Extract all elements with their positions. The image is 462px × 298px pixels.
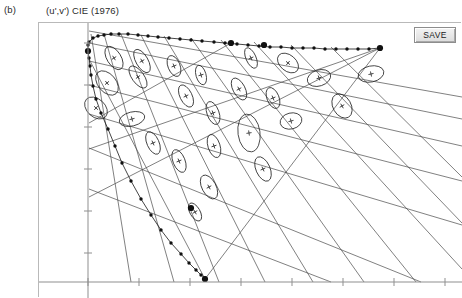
wavelength-marker	[146, 34, 149, 37]
wavelength-marker	[136, 33, 139, 36]
wavelength-marker	[199, 273, 202, 276]
wavelength-marker	[279, 45, 282, 48]
macadam-ellipse	[357, 63, 386, 84]
macadam-ellipse	[193, 64, 208, 86]
grid-lines-group	[89, 31, 462, 282]
macadam-ellipse	[263, 86, 282, 111]
wavelength-marker	[109, 32, 112, 35]
wavelength-marker	[312, 46, 315, 49]
wavelength-marker	[120, 161, 123, 164]
macadam-ellipse	[278, 111, 303, 132]
wavelength-marker	[334, 47, 337, 50]
wavelength-marker	[345, 47, 348, 50]
grid-line	[89, 59, 205, 279]
wavelength-marker	[169, 241, 172, 244]
grid-line	[91, 34, 131, 282]
grid-line	[89, 189, 331, 282]
wavelength-marker	[88, 64, 91, 67]
wavelength-marker	[257, 44, 260, 47]
panel-label: (b)	[4, 4, 16, 15]
macadam-ellipse	[118, 109, 147, 129]
macadam-ellipse	[169, 148, 189, 175]
wavelength-marker	[139, 197, 142, 200]
wavelength-marker	[102, 33, 105, 36]
grid-line	[89, 48, 380, 197]
wavelength-marker	[187, 261, 190, 264]
grid-line	[191, 38, 364, 282]
macadam-ellipse	[228, 76, 250, 103]
spectral-locus-upper	[89, 34, 380, 49]
macadam-ellipse	[175, 83, 196, 110]
wavelength-marker	[301, 46, 304, 49]
wavelength-marker	[94, 97, 97, 100]
primary-wavelength-marker	[377, 45, 383, 51]
wavelength-marker	[223, 41, 226, 44]
macadam-ellipse	[328, 90, 357, 122]
wavelength-marker	[178, 37, 181, 40]
wavelength-marker	[194, 268, 197, 271]
save-button[interactable]: SAVE	[414, 27, 456, 43]
macadam-ellipses-group	[80, 43, 385, 223]
wavelength-marker	[167, 36, 170, 39]
macadam-ellipse	[242, 46, 260, 70]
wavelength-marker	[149, 213, 152, 216]
wavelength-marker	[106, 127, 109, 130]
primary-wavelength-marker	[188, 205, 194, 211]
grid-line	[89, 31, 462, 97]
wavelength-marker	[126, 32, 129, 35]
wavelength-marker	[129, 179, 132, 182]
wavelength-marker	[290, 46, 293, 49]
wavelength-marker	[96, 34, 99, 37]
page-title: (u',v') CIE (1976)	[46, 5, 119, 16]
wavelength-marker	[179, 252, 182, 255]
wavelength-marker	[200, 39, 203, 42]
plot-panel	[38, 22, 461, 297]
wavelength-marker	[117, 32, 120, 35]
wavelength-marker	[212, 40, 215, 43]
wavelength-marker	[246, 43, 249, 46]
primary-wavelength-marker	[261, 42, 267, 48]
wavelength-marker	[323, 47, 326, 50]
grid-line	[291, 45, 462, 223]
chromaticity-diagram	[39, 23, 462, 298]
macadam-ellipse	[274, 49, 303, 77]
wavelength-marker	[356, 47, 359, 50]
wavelength-marker	[268, 45, 271, 48]
wavelength-marker	[235, 42, 238, 45]
wavelength-marker	[159, 228, 162, 231]
wavelength-marker	[156, 35, 159, 38]
macadam-ellipse	[101, 43, 127, 72]
wavelength-marker	[189, 38, 192, 41]
wavelength-marker	[113, 144, 116, 147]
grid-line	[331, 47, 462, 177]
wavelength-marker	[89, 73, 92, 76]
wavelength-marker	[91, 36, 94, 39]
macadam-ellipse	[251, 154, 274, 183]
wavelength-marker	[367, 47, 370, 50]
macadam-ellipse	[126, 63, 151, 91]
primary-wavelength-marker	[228, 40, 234, 46]
primary-wavelength-marker	[202, 276, 208, 282]
wavelength-marker	[99, 111, 102, 114]
